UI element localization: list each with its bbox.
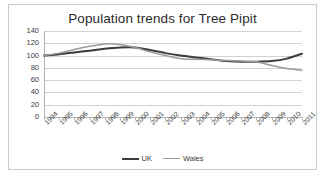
y-axis-tick-label: 80 [31,64,39,72]
y-axis-tick-label: 120 [26,40,39,48]
series-lines [44,31,302,117]
series-line-wales [44,44,302,70]
y-axis-tick-labels: 140120100806040200 [9,31,42,117]
x-axis-tick-labels: 1994199519961997199819992000200120022003… [44,121,302,151]
y-axis-tick-label: 60 [31,76,39,84]
y-axis-tick-label: 40 [31,89,39,97]
y-axis-tick-label: 20 [31,101,39,109]
legend-entry-wales[interactable]: Wales [163,155,204,163]
series-line-uk [44,47,302,61]
chart-legend: UKWales [9,155,316,163]
x-axis-tick-label: 2011 [301,110,317,126]
chart-screenshot: Population trends for Tree Pipit 1401201… [0,0,326,182]
chart-title: Population trends for Tree Pipit [9,11,316,26]
chart-frame: Population trends for Tree Pipit 1401201… [8,4,317,170]
y-axis-tick-label: 0 [35,113,39,121]
legend-label-uk: UK [142,155,152,163]
legend-swatch-wales [163,158,180,159]
legend-swatch-uk [122,158,139,160]
legend-entry-uk[interactable]: UK [122,155,152,163]
legend-label-wales: Wales [183,155,204,163]
plot-area [44,31,302,117]
y-axis-tick-label: 140 [26,27,39,35]
y-axis-tick-label: 100 [26,52,39,60]
